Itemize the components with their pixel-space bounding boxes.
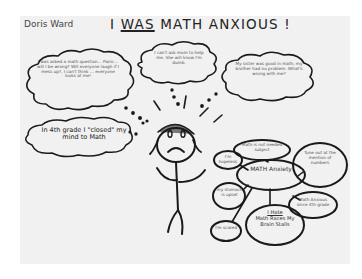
author-name: Doris Ward xyxy=(24,19,73,29)
page-title: I WAS MATH ANXIOUS ! xyxy=(110,17,291,33)
stress-marks xyxy=(154,96,222,122)
bubble-ask-mom-text: I can't ask mom to help me. She will kno… xyxy=(150,51,208,65)
title-prefix: I xyxy=(110,16,121,32)
author-signature: Doris Ward xyxy=(24,20,73,29)
bubble-closed-mind-text: In 4th grade I "closed" my mind to Math xyxy=(34,127,134,142)
node-math-anxiety-text: MATH Anxiety xyxy=(246,166,296,173)
stick-figure xyxy=(150,124,205,234)
node-stomach-text: my stomach is upset xyxy=(216,188,243,198)
bubble-asked-question-text: I was asked a math question... Panic... … xyxy=(36,60,120,79)
node-math-is-not-text: Math is not needed subject xyxy=(238,143,286,153)
node-im-hopeless-text: I'm hopeless xyxy=(216,155,240,165)
node-since-4th-text: Math Anxious since 4th grade xyxy=(293,198,333,208)
node-im-scared-text: I'm scared xyxy=(214,226,238,231)
title-suffix: MATH ANXIOUS ! xyxy=(155,16,291,32)
node-i-hate-text: Math Races My Brain Stalls xyxy=(252,216,298,228)
oval-im-scared xyxy=(211,221,241,241)
title-underlined-word: WAS xyxy=(121,16,155,32)
node-i-hate: I Hate Math Races My Brain Stalls xyxy=(252,210,298,228)
node-tune-out-text: Tune out at the mention of numbers xyxy=(300,151,340,165)
bubble-sister-brother-text: My sister was good in math, my brother h… xyxy=(234,62,304,76)
